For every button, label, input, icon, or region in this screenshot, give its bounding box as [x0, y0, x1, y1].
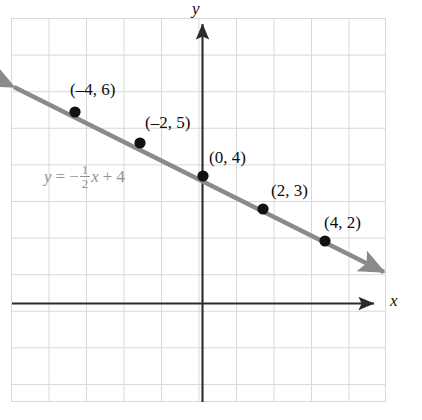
- x-axis-label: x: [390, 292, 398, 309]
- graph-figure: y x (–4, 6) (–2, 5) (0, 4) (2, 3) (4, 2)…: [0, 0, 422, 420]
- data-point: [257, 203, 268, 214]
- data-point: [134, 137, 145, 148]
- fraction-denominator: 2: [80, 177, 91, 190]
- point-label-neg4-6: (–4, 6): [70, 81, 115, 98]
- point-label-0-4: (0, 4): [209, 149, 246, 166]
- point-label-neg2-5: (–2, 5): [145, 114, 190, 131]
- data-point: [197, 170, 208, 181]
- equation-equals: =: [56, 168, 66, 185]
- data-point: [69, 106, 80, 117]
- point-label-4-2: (4, 2): [324, 214, 361, 231]
- fraction-numerator: 1: [80, 163, 91, 176]
- equation-lhs: y: [44, 168, 52, 185]
- plot-canvas: [0, 0, 422, 420]
- point-label-2-3: (2, 3): [271, 182, 308, 199]
- equation-plus-sign: +: [103, 168, 113, 185]
- equation-annotation: y = − 1 2 x + 4: [44, 163, 125, 191]
- equation-minus-sign: −: [69, 168, 79, 185]
- data-point: [319, 235, 330, 246]
- equation-variable: x: [91, 168, 99, 185]
- y-axis-label: y: [192, 0, 200, 17]
- equation-constant: 4: [116, 168, 125, 185]
- equation-fraction: 1 2: [80, 163, 91, 191]
